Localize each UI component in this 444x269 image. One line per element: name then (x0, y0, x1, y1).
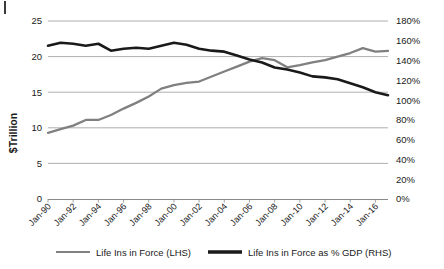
x-tick-label: Jan-96 (102, 201, 129, 228)
x-tick-label: Jan-94 (77, 201, 104, 228)
x-tick-label: Jan-16 (354, 201, 381, 228)
legend-label: Life Ins in Force as % GDP (RHS) (248, 247, 391, 258)
secondary-y-tick-label: 40% (396, 154, 416, 165)
y-axis-tick-labels: 0510152025 (31, 15, 42, 204)
x-tick-label: Jan-98 (127, 201, 154, 228)
x-tick-label: Jan-04 (203, 201, 230, 228)
x-tick-label: Jan-06 (228, 201, 255, 228)
legend-label: Life Ins in Force (LHS) (96, 247, 191, 258)
series-line-life-ins-pct-gdp (48, 43, 388, 95)
y-tick-label: 10 (31, 122, 42, 133)
secondary-y-tick-label: 100% (396, 95, 421, 106)
x-tick-label: Jan-02 (177, 201, 204, 228)
series-line-life-ins-in-force (48, 48, 388, 133)
secondary-y-tick-label: 0% (396, 193, 410, 204)
y-tick-label: 20 (31, 51, 42, 62)
legend: Life Ins in Force (LHS)Life Ins in Force… (56, 247, 391, 258)
secondary-y-axis-tick-labels: 0%20%40%60%80%100%120%140%160%180% (396, 15, 421, 204)
chart-container: 0510152025 0%20%40%60%80%100%120%140%160… (0, 0, 444, 269)
y-tick-label: 15 (31, 87, 42, 98)
x-axis-tick-labels: Jan-90Jan-92Jan-94Jan-96Jan-98Jan-00Jan-… (26, 201, 380, 228)
line-chart-figure: 0510152025 0%20%40%60%80%100%120%140%160… (0, 0, 444, 269)
secondary-y-tick-label: 140% (396, 55, 421, 66)
y-tick-label: 0 (37, 193, 42, 204)
x-tick-label: Jan-12 (303, 201, 330, 228)
secondary-y-tick-label: 180% (396, 15, 421, 26)
y-tick-label: 5 (37, 158, 42, 169)
x-tick-label: Jan-92 (52, 201, 79, 228)
x-tick-label: Jan-90 (26, 201, 53, 228)
secondary-y-tick-label: 120% (396, 75, 421, 86)
gridlines-group (48, 21, 388, 163)
y-axis-title: $Trillion (7, 113, 19, 153)
secondary-y-tick-label: 160% (396, 35, 421, 46)
y-tick-label: 25 (31, 15, 42, 26)
x-tick-label: Jan-00 (152, 201, 179, 228)
secondary-y-tick-label: 20% (396, 174, 416, 185)
secondary-y-tick-label: 60% (396, 134, 416, 145)
x-tick-label: Jan-14 (329, 201, 356, 228)
secondary-y-tick-label: 80% (396, 114, 416, 125)
x-tick-label: Jan-10 (278, 201, 305, 228)
x-tick-label: Jan-08 (253, 201, 280, 228)
